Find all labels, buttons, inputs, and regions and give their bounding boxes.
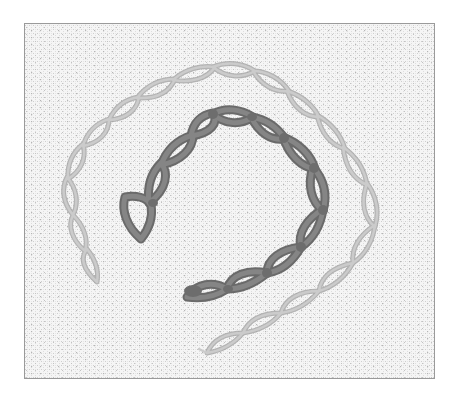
embroidery-illustration [25, 24, 435, 379]
embroidery-photo: Two curved rows of chain stitch on even-… [24, 23, 435, 379]
